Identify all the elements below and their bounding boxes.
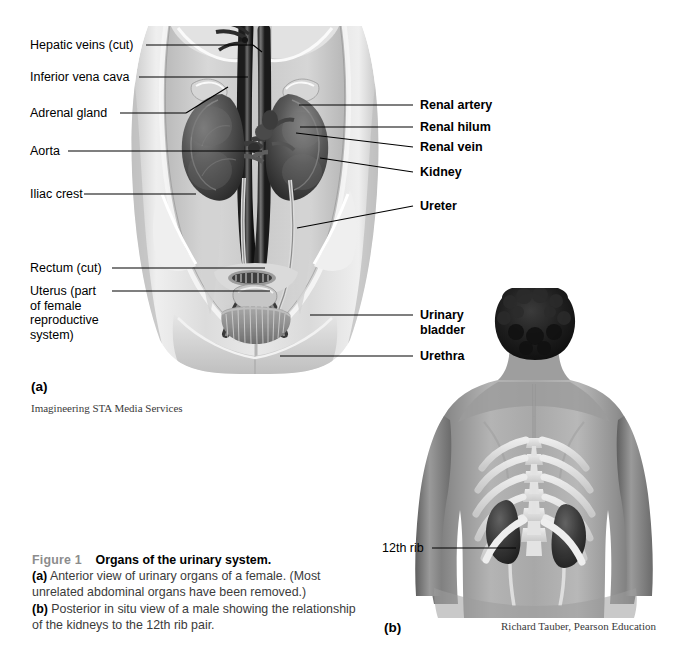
label-hepatic-veins: Hepatic veins (cut) bbox=[30, 38, 134, 53]
label-urinary-bladder: Urinary bladder bbox=[420, 308, 465, 337]
label-inferior-vena-cava: Inferior vena cava bbox=[30, 70, 129, 85]
caption-part-a: (a) Anterior view of urinary organs of a… bbox=[32, 568, 362, 600]
panel-a-illustration bbox=[118, 22, 393, 374]
label-ureter: Ureter bbox=[420, 199, 457, 214]
caption-part-b-text: Posterior in situ view of a male showing… bbox=[32, 602, 356, 632]
label-renal-artery: Renal artery bbox=[420, 98, 492, 113]
panel-b-photograph bbox=[398, 288, 676, 618]
caption-figure-title: Organs of the urinary system. bbox=[96, 553, 272, 567]
label-12th-rib: 12th rib bbox=[382, 541, 424, 556]
anterior-urinary-organs-art bbox=[118, 22, 393, 374]
label-urethra: Urethra bbox=[420, 349, 464, 364]
label-uterus: Uterus (part of female reproductive syst… bbox=[30, 284, 99, 342]
caption-part-b-marker: (b) bbox=[32, 602, 48, 616]
label-renal-vein: Renal vein bbox=[420, 140, 483, 155]
label-kidney: Kidney bbox=[420, 165, 462, 180]
panel-b-letter: (b) bbox=[384, 620, 401, 635]
figure-container: Hepatic veins (cut) Inferior vena cava A… bbox=[0, 0, 700, 662]
caption-figure-number: Figure 1 bbox=[32, 553, 82, 567]
caption-part-a-text: Anterior view of urinary organs of a fem… bbox=[32, 569, 321, 599]
label-renal-hilum: Renal hilum bbox=[420, 120, 491, 135]
label-iliac-crest: Iliac crest bbox=[30, 187, 83, 202]
figure-caption: Figure 1 Organs of the urinary system. (… bbox=[32, 552, 362, 633]
panel-a-letter: (a) bbox=[31, 379, 48, 394]
label-adrenal-gland: Adrenal gland bbox=[30, 106, 107, 121]
caption-part-b: (b) Posterior in situ view of a male sho… bbox=[32, 601, 362, 633]
posterior-male-back-photo bbox=[398, 288, 676, 618]
label-aorta: Aorta bbox=[30, 144, 60, 159]
panel-a-credit: Imagineering STA Media Services bbox=[31, 402, 183, 414]
label-rectum: Rectum (cut) bbox=[30, 261, 102, 276]
caption-part-a-marker: (a) bbox=[32, 569, 47, 583]
panel-b-credit: Richard Tauber, Pearson Education bbox=[501, 620, 656, 632]
caption-title-line: Figure 1 Organs of the urinary system. bbox=[32, 552, 362, 568]
